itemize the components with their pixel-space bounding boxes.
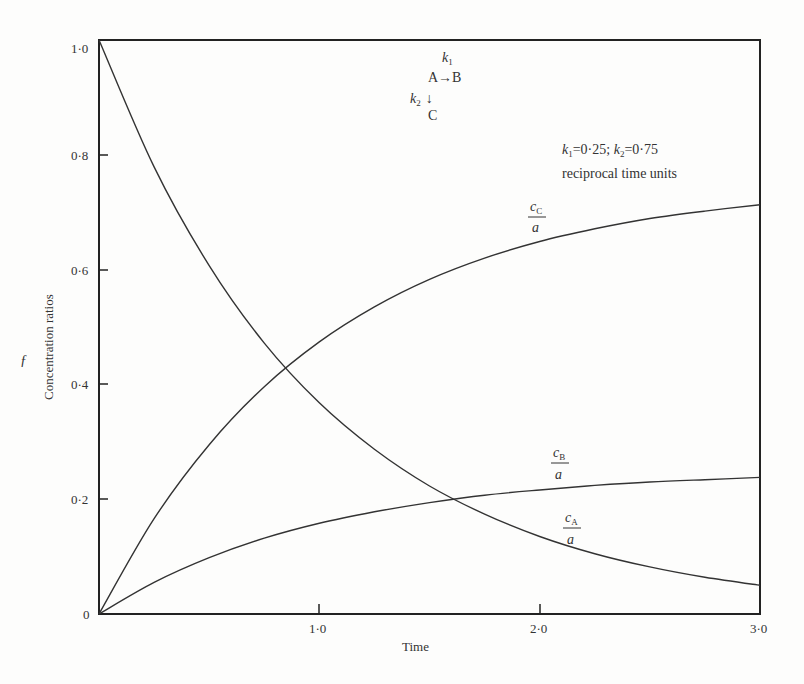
label-cB: cB a xyxy=(551,445,569,482)
svg-text:cB: cB xyxy=(553,445,565,462)
reaction-scheme: k1 A→B k2↓ C xyxy=(410,50,461,123)
label-cC: cC a xyxy=(528,199,546,235)
side-mark: ƒ xyxy=(20,353,27,368)
y-tick-1.0: 1·0 xyxy=(71,41,88,56)
svg-text:k1: k1 xyxy=(442,50,453,67)
svg-text:cC: cC xyxy=(530,199,542,216)
svg-text:a: a xyxy=(567,532,574,547)
y-axis xyxy=(99,155,108,499)
y-tick-0.2: 0·2 xyxy=(71,492,88,507)
x-axis-title: Time xyxy=(402,639,429,654)
svg-text:k2↓: k2↓ xyxy=(410,91,433,108)
y-tick-0.6: 0·6 xyxy=(71,263,89,278)
x-tick-2.0: 2·0 xyxy=(530,621,547,636)
svg-text:C: C xyxy=(428,108,437,123)
reaction-kinetics-chart: 0 0·2 0·4 0·6 0·8 1·0 1·0 2·0 3·0 Time C… xyxy=(0,0,804,684)
y-tick-0.8: 0·8 xyxy=(71,148,88,163)
curve-cB xyxy=(99,477,760,614)
svg-text:A→B: A→B xyxy=(428,70,461,85)
y-tick-0.4: 0·4 xyxy=(71,377,89,392)
rate-constants: k1=0·25; k2=0·75 reciprocal time units xyxy=(562,142,677,181)
svg-text:a: a xyxy=(555,467,562,482)
y-tick-0: 0 xyxy=(83,607,90,622)
x-axis xyxy=(319,604,540,614)
svg-text:cA: cA xyxy=(565,510,578,527)
svg-text:reciprocal time units: reciprocal time units xyxy=(562,166,677,181)
x-tick-3.0: 3·0 xyxy=(750,621,767,636)
plot-frame xyxy=(99,40,760,614)
label-cA: cA a xyxy=(563,510,581,547)
svg-text:a: a xyxy=(532,220,539,235)
svg-text:k1=0·25; k2=0·75: k1=0·25; k2=0·75 xyxy=(562,142,658,159)
curve-cC xyxy=(99,205,760,614)
x-tick-1.0: 1·0 xyxy=(309,621,326,636)
y-axis-title: Concentration ratios xyxy=(41,294,56,400)
